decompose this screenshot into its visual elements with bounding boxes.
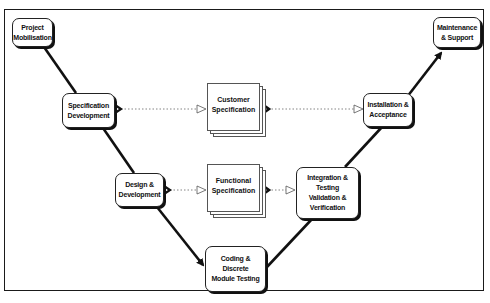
node-installation-acceptance: Installation & Acceptance (363, 93, 413, 127)
node-specification-development: Specification Development (62, 93, 115, 128)
edge-coding-to-integration (266, 219, 312, 268)
chevron-icon (115, 105, 121, 113)
edge-integration-to-installation (345, 127, 382, 167)
node-label: & Support (441, 33, 473, 43)
node-label: Development (68, 111, 110, 121)
doc-sheet-front: Functional Specification (207, 164, 260, 212)
doc-label: Specification (212, 186, 256, 196)
doc-label: Customer (217, 95, 250, 105)
node-label: Installation & (367, 100, 408, 110)
node-label: Acceptance (369, 110, 406, 120)
node-coding-testing: Coding & Discrete Module Testing (205, 246, 266, 292)
open-arrow-icon (286, 186, 295, 194)
node-label: Coding & (221, 254, 251, 264)
doc-label: Specification (212, 105, 256, 115)
node-label: Integration & (307, 173, 348, 183)
node-label: Discrete (222, 264, 248, 274)
node-label: Testing (316, 183, 339, 193)
node-label: Mobilisation (13, 33, 51, 43)
node-label: Project (21, 23, 43, 33)
node-label: Validation & (309, 193, 347, 203)
node-label: Maintenance (437, 23, 477, 33)
doc-functional-specification: Functional Specification (207, 164, 260, 212)
doc-label: Functional (216, 176, 251, 186)
node-label: Module Testing (211, 274, 259, 284)
edge-spec-to-design (103, 128, 134, 173)
open-arrow-icon (197, 105, 206, 113)
node-label: Design & (125, 180, 154, 190)
edge-mobilisation-to-spec (44, 47, 76, 93)
open-arrow-icon (354, 105, 363, 113)
chevron-icon (164, 186, 170, 194)
doc-sheet-front: Customer Specification (207, 83, 260, 131)
edge-design-to-coding (157, 207, 203, 265)
node-label: Development (119, 190, 161, 200)
node-design-development: Design & Development (115, 173, 164, 207)
node-integration-testing: Integration & Testing Validation & Verif… (296, 167, 359, 219)
node-label: Verification (310, 203, 345, 213)
edge-installation-to-maintenance (407, 53, 441, 97)
node-project-mobilisation: Project Mobilisation (12, 18, 53, 47)
doc-customer-specification: Customer Specification (207, 83, 260, 131)
node-label: Specification (68, 101, 109, 111)
node-maintenance-support: Maintenance & Support (433, 17, 481, 48)
open-arrow-icon (197, 186, 206, 194)
